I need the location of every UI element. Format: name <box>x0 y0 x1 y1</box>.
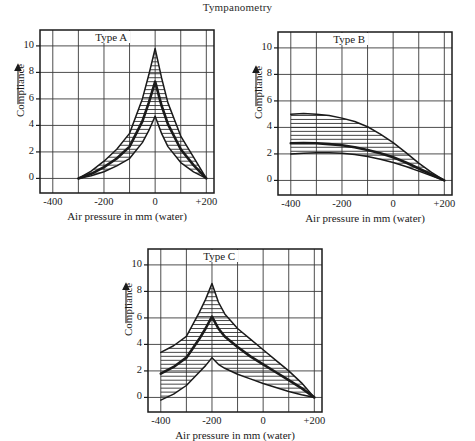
y-tick-label: 10 <box>124 258 142 269</box>
y-tick-label: 2 <box>124 364 142 375</box>
tympanogram-plot-type-b <box>252 22 474 222</box>
panel-label-type-b: Type B <box>330 33 368 45</box>
y-axis-title: Compliance <box>122 283 134 336</box>
y-tick-label: 4 <box>124 337 142 348</box>
y-tick-label: 0 <box>124 390 142 401</box>
chart-panel-type-b: Type B-400-2000+2000246810Air pressure i… <box>252 22 474 222</box>
x-tick-label: 0 <box>371 198 415 209</box>
x-tick-label: +200 <box>292 415 336 426</box>
y-axis-title: Compliance <box>252 66 264 119</box>
figure-title: Tympanometry <box>0 1 475 13</box>
tympanogram-plot-type-a <box>14 22 236 222</box>
x-tick-label: -200 <box>190 415 234 426</box>
x-axis-title: Air pressure in mm (water) <box>128 429 342 441</box>
y-tick-label: 0 <box>254 173 272 184</box>
panel-label-type-a: Type A <box>92 31 130 43</box>
y-tick-label: 0 <box>16 171 34 182</box>
x-tick-label: -200 <box>320 198 364 209</box>
x-tick-label: +200 <box>422 198 466 209</box>
x-axis-title: Air pressure in mm (water) <box>20 210 234 222</box>
x-tick-label: +200 <box>184 196 228 207</box>
chart-panel-type-a: Type A-400-2000+2000246810Air pressure i… <box>14 22 236 222</box>
x-tick-label: -200 <box>82 196 126 207</box>
plot-frame <box>148 249 322 412</box>
x-tick-label: -400 <box>269 198 313 209</box>
y-tick-label: 10 <box>16 39 34 50</box>
y-axis-title: Compliance <box>14 64 26 117</box>
y-tick-label: 2 <box>254 147 272 158</box>
x-tick-label: 0 <box>241 415 285 426</box>
chart-panel-type-c: Type C-400-2000+2000246810Air pressure i… <box>122 240 344 440</box>
panel-label-type-c: Type C <box>200 250 238 262</box>
grid-lines <box>148 249 322 412</box>
y-tick-label: 4 <box>254 120 272 131</box>
y-tick-label: 4 <box>16 118 34 129</box>
x-axis-title: Air pressure in mm (water) <box>258 212 472 224</box>
y-tick-label: 10 <box>254 41 272 52</box>
x-tick-label: 0 <box>133 196 177 207</box>
hatch-fill <box>146 253 324 412</box>
x-tick-label: -400 <box>31 196 75 207</box>
x-tick-label: -400 <box>139 415 183 426</box>
tympanogram-plot-type-c <box>122 240 344 440</box>
y-tick-label: 2 <box>16 145 34 156</box>
